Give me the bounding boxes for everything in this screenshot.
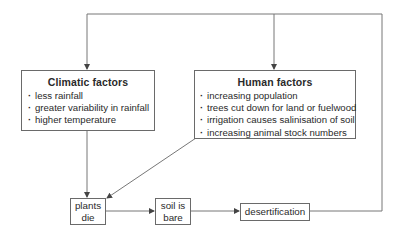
plants-die-line1: plants bbox=[75, 200, 101, 212]
list-item: less rainfall bbox=[28, 90, 154, 102]
list-item: higher temperature bbox=[28, 114, 154, 126]
list-item: increasing animal stock numbers bbox=[200, 127, 355, 139]
soil-bare-box: soil is bare bbox=[155, 198, 191, 225]
desertification-diagram: Climatic factors less rainfall greater v… bbox=[0, 0, 404, 236]
human-factors-box: Human factors increasing population tree… bbox=[194, 70, 356, 139]
list-item: greater variability in rainfall bbox=[28, 102, 154, 114]
arrow-human-to-plants bbox=[107, 138, 196, 198]
plants-die-line2: die bbox=[75, 212, 101, 224]
desertification-box: desertification bbox=[240, 203, 310, 221]
climatic-factors-title: Climatic factors bbox=[22, 76, 154, 88]
desertification-label: desertification bbox=[245, 206, 305, 218]
soil-bare-line2: bare bbox=[161, 212, 186, 224]
human-factors-title: Human factors bbox=[195, 76, 355, 88]
climatic-factors-list: less rainfall greater variability in rai… bbox=[22, 90, 154, 127]
climatic-factors-box: Climatic factors less rainfall greater v… bbox=[21, 70, 155, 131]
list-item: increasing population bbox=[200, 90, 355, 102]
list-item: trees cut down for land or fuelwood bbox=[200, 102, 355, 114]
human-factors-list: increasing population trees cut down for… bbox=[195, 90, 355, 139]
list-item: irrigation causes salinisation of soil bbox=[200, 114, 355, 126]
soil-bare-line1: soil is bbox=[161, 200, 186, 212]
plants-die-box: plants die bbox=[70, 198, 106, 225]
